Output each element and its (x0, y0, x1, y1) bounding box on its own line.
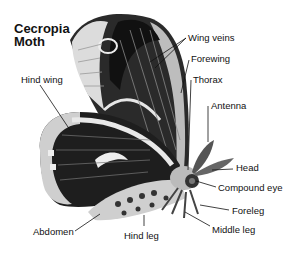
label-abdomen: Abdomen (33, 226, 74, 237)
label-forewing: Forewing (191, 53, 230, 64)
antenna-shape (192, 140, 234, 176)
label-wing-veins: Wing veins (188, 32, 234, 43)
label-foreleg: Foreleg (232, 205, 264, 216)
title-line-2: Moth (14, 35, 70, 48)
label-thorax: Thorax (193, 74, 223, 85)
diagram-title: Cecropia Moth (14, 22, 70, 48)
label-hind-wing: Hind wing (21, 74, 63, 85)
label-antenna: Antenna (211, 100, 246, 111)
label-hind-leg: Hind leg (124, 230, 159, 241)
label-compound-eye: Compound eye (218, 182, 282, 193)
label-middle-leg: Middle leg (212, 224, 255, 235)
label-head: Head (236, 162, 259, 173)
